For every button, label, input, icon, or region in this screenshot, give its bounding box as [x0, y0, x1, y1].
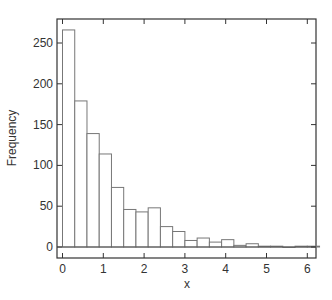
histogram-bar — [111, 187, 123, 247]
y-tick-label: 200 — [33, 77, 53, 91]
histogram-bar — [99, 154, 111, 247]
x-tick-label: 1 — [100, 262, 107, 276]
x-tick-label: 2 — [141, 262, 148, 276]
y-tick-label: 0 — [46, 240, 53, 254]
histogram-bars — [63, 30, 320, 248]
histogram-bar — [173, 231, 185, 247]
y-tick-label: 250 — [33, 36, 53, 50]
x-tick-label: 3 — [182, 262, 189, 276]
histogram-bar — [136, 212, 148, 247]
histogram-bar — [209, 242, 221, 247]
y-tick-label: 50 — [40, 199, 54, 213]
x-tick-label: 6 — [304, 262, 311, 276]
histogram-chart: 0123456 050100150200250 x Frequency — [0, 0, 332, 300]
histogram-bar — [222, 240, 234, 247]
histogram-bar — [63, 30, 75, 247]
histogram-bar — [160, 227, 172, 247]
histogram-bar — [87, 134, 99, 247]
histogram-bar — [148, 208, 160, 247]
x-axis-title: x — [184, 277, 190, 291]
histogram-bar — [75, 101, 87, 247]
x-tick-label: 5 — [263, 262, 270, 276]
x-tick-label: 0 — [59, 262, 66, 276]
y-axis-title: Frequency — [5, 110, 19, 167]
histogram-bar — [124, 209, 136, 247]
y-tick-label: 150 — [33, 118, 53, 132]
histogram-bar — [197, 238, 209, 247]
histogram-bar — [185, 240, 197, 247]
x-tick-label: 4 — [222, 262, 229, 276]
y-tick-label: 100 — [33, 158, 53, 172]
